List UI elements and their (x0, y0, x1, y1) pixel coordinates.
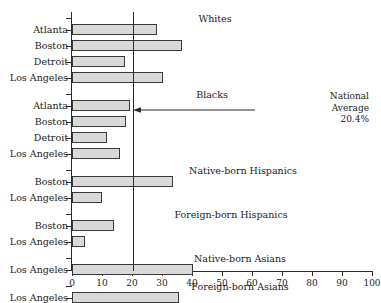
x-axis-tick-label: 30 (156, 278, 167, 288)
x-axis-tick-label: 80 (306, 278, 317, 288)
national-average-arrow-icon (133, 106, 255, 108)
bar (72, 56, 125, 67)
category-label: Los Angeles (10, 236, 68, 247)
y-axis-tick (66, 286, 72, 287)
group-heading-native-born-asians: Native-born Asians (194, 253, 286, 264)
y-axis-tick (66, 258, 72, 259)
category-label: Atlanta (33, 100, 68, 111)
category-label: Los Angeles (10, 264, 68, 275)
category-label: Boston (35, 220, 68, 231)
group-heading-foreign-born-asians: Foreign-born Asians (191, 281, 288, 292)
x-axis-tick-label: 100 (363, 278, 380, 288)
y-axis-tick (66, 170, 72, 171)
category-label: Detroit (34, 132, 68, 143)
bar (72, 24, 157, 35)
bar (72, 192, 102, 203)
national-average-line1: National (273, 91, 369, 103)
category-label: Los Angeles (10, 192, 68, 203)
national-average-line3: 20.4% (273, 114, 369, 126)
x-axis-tick (252, 271, 253, 276)
bar (72, 116, 126, 127)
category-label: Atlanta (33, 24, 68, 35)
bar (72, 236, 85, 247)
bar (72, 176, 173, 187)
bar (72, 100, 130, 111)
x-axis-tick (372, 271, 373, 276)
y-axis-tick (66, 214, 72, 215)
bar (72, 72, 163, 83)
x-axis-tick (342, 271, 343, 276)
x-axis-tick (312, 271, 313, 276)
bar (72, 292, 179, 303)
x-axis-tick (222, 271, 223, 276)
category-label: Los Angeles (10, 148, 68, 159)
category-label: Boston (35, 116, 68, 127)
national-average-line2: Average (273, 103, 369, 115)
category-label: Boston (35, 40, 68, 51)
category-label: Los Angeles (10, 72, 68, 83)
group-heading-blacks: Blacks (196, 89, 228, 100)
category-label: Los Angeles (10, 292, 68, 303)
bar (72, 148, 120, 159)
bar (72, 132, 107, 143)
group-heading-foreign-born-hispanics: Foreign-born Hispanics (174, 209, 287, 220)
x-axis-tick (282, 271, 283, 276)
x-axis-tick-label: 90 (336, 278, 347, 288)
bar (72, 220, 114, 231)
category-label: Detroit (34, 56, 68, 67)
bar (72, 40, 182, 51)
category-label: Boston (35, 176, 68, 187)
national-average-line (133, 12, 134, 271)
x-axis-tick-label: 10 (96, 278, 107, 288)
y-axis-tick (66, 18, 72, 19)
x-axis-tick-label: 20 (126, 278, 137, 288)
group-heading-native-born-hispanics: Native-born Hispanics (189, 165, 297, 176)
national-average-label: National Average 20.4% (273, 91, 369, 126)
group-heading-whites: Whites (198, 13, 231, 24)
y-axis-tick (66, 94, 72, 95)
